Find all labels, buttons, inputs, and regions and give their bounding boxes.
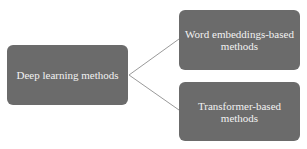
- node-label: Transformer-based methods: [185, 100, 294, 124]
- node-transformer-based-methods: Transformer-based methods: [179, 82, 300, 141]
- connector-root-to-word-embeddings: [129, 39, 179, 75]
- connector-root-to-transformer: [129, 75, 179, 110]
- node-word-embeddings-based-methods: Word embeddings-based methods: [179, 10, 300, 70]
- node-label: Deep learning methods: [16, 69, 118, 81]
- node-label: Word embeddings-based methods: [185, 28, 294, 52]
- node-deep-learning-methods: Deep learning methods: [7, 45, 128, 105]
